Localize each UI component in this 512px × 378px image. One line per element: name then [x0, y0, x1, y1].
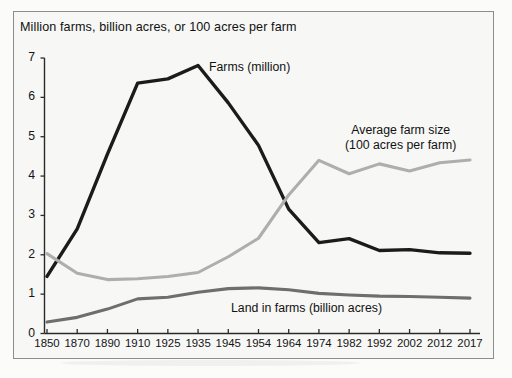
series-label-average-farm-size-line2: (100 acres per farm) — [345, 138, 456, 153]
x-axis-tick-label: 1850 — [30, 337, 64, 349]
x-axis-tick-label: 2012 — [423, 337, 457, 349]
x-axis-tick-label: 1935 — [181, 337, 215, 349]
x-axis-tick-label: 1945 — [211, 337, 245, 349]
paper-artifact — [60, 360, 360, 366]
x-axis-tick-label: 1982 — [332, 337, 366, 349]
y-axis-tick-label: 7 — [21, 50, 35, 64]
x-axis-tick-label: 1954 — [242, 337, 276, 349]
chart-title: Million farms, billion acres, or 100 acr… — [20, 20, 297, 34]
x-axis-tick-label: 1964 — [272, 337, 306, 349]
screenshot-page: Million farms, billion acres, or 100 acr… — [0, 0, 512, 378]
series-label-farms: Farms (million) — [209, 60, 290, 75]
x-axis-tick-label: 1925 — [151, 337, 185, 349]
x-axis-tick-label: 1910 — [121, 337, 155, 349]
x-axis-tick-label: 1974 — [302, 337, 336, 349]
series-label-average-farm-size-line1: Average farm size — [345, 123, 456, 138]
y-axis-tick-label: 2 — [21, 247, 35, 261]
x-axis-tick-label: 2002 — [393, 337, 427, 349]
y-axis-tick-label: 3 — [21, 207, 35, 221]
y-axis-tick-label: 4 — [21, 168, 35, 182]
series-label-land-in-farms: Land in farms (billion acres) — [231, 301, 382, 316]
y-axis-tick-label: 1 — [21, 286, 35, 300]
y-axis-tick-label: 5 — [21, 129, 35, 143]
x-axis-tick-label: 1870 — [60, 337, 94, 349]
x-axis-tick-label: 1992 — [362, 337, 396, 349]
x-axis-tick-label: 1890 — [90, 337, 124, 349]
series-label-average-farm-size: Average farm size (100 acres per farm) — [345, 123, 456, 152]
x-axis-tick-label: 2017 — [453, 337, 487, 349]
y-axis-tick-label: 6 — [21, 89, 35, 103]
